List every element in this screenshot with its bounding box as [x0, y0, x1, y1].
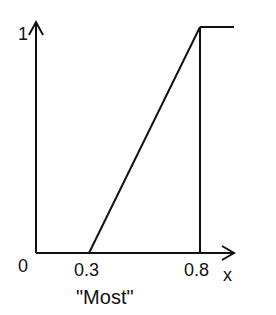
tick-label-0.8: 0.8 — [184, 260, 209, 280]
diagram-title: "Most" — [76, 286, 134, 308]
rising-edge — [89, 27, 200, 253]
membership-diagram: 1 0 0.3 0.8 x "Most" — [0, 0, 276, 315]
x-axis-label: x — [223, 265, 232, 285]
origin-label: 0 — [18, 256, 28, 276]
tick-label-0.3: 0.3 — [74, 260, 99, 280]
y-top-label: 1 — [18, 24, 28, 44]
